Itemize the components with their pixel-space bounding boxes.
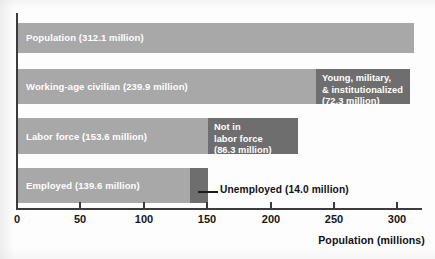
x-tick-label-100: 100 <box>135 213 153 225</box>
segment-label-not-in-labor-force: Not in labor force (86.3 million) <box>214 122 272 157</box>
x-tick-label-50: 50 <box>74 213 86 225</box>
x-axis-line <box>16 208 422 210</box>
bar-working-age-civilian: Working-age civilian (239.9 million) You… <box>18 69 410 104</box>
unemployed-callout-label: Unemployed (14.0 million) <box>220 184 349 195</box>
x-tick-300 <box>396 202 398 209</box>
x-axis-title: Population (millions) <box>318 234 425 246</box>
bar-population: Population (312.1 million) <box>18 23 414 53</box>
x-tick-150 <box>206 202 208 209</box>
x-tick-100 <box>143 202 145 209</box>
x-tick-0 <box>16 202 18 209</box>
segment-label-not-in-labor-force-line2: labor force <box>214 134 272 146</box>
segment-label-young-military-line1: Young, military, <box>322 73 403 85</box>
segment-label-young-military: Young, military, & institutionalized (72… <box>322 73 403 108</box>
x-tick-250 <box>333 202 335 209</box>
segment-label-not-in-labor-force-line3: (86.3 million) <box>214 145 272 157</box>
segment-label-young-military-line2: & institutionalized <box>322 85 403 97</box>
bar-employed-label: Employed (139.6 million) <box>26 181 140 191</box>
unemployed-callout-leader-line <box>198 191 218 193</box>
x-tick-label-300: 300 <box>388 213 406 225</box>
segment-label-not-in-labor-force-line1: Not in <box>214 122 272 134</box>
x-tick-label-150: 150 <box>198 213 216 225</box>
bar-labor-force: Labor force (153.6 million) Not in labor… <box>18 118 298 154</box>
bar-employed: Employed (139.6 million) <box>18 168 208 203</box>
bar-population-label: Population (312.1 million) <box>26 33 144 43</box>
x-tick-label-0: 0 <box>14 213 20 225</box>
segment-label-young-military-line3: (72.3 million) <box>322 96 403 108</box>
x-tick-200 <box>270 202 272 209</box>
x-tick-label-250: 250 <box>325 213 343 225</box>
x-tick-50 <box>79 202 81 209</box>
bar-employed-segment-unemployed <box>190 168 208 203</box>
bar-labor-force-label: Labor force (153.6 million) <box>26 132 147 142</box>
bar-working-age-label: Working-age civilian (239.9 million) <box>26 82 188 92</box>
bar-chart-figure: Population (312.1 million) Working-age c… <box>0 0 435 259</box>
x-tick-label-200: 200 <box>262 213 280 225</box>
